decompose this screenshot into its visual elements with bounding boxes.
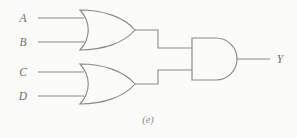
logic-circuit-figure: A B C D Y (e) [0, 0, 297, 138]
wire-or-bottom-to-and [135, 70, 192, 84]
circuit-diagram-svg: A B C D Y (e) [0, 0, 297, 138]
input-label-a: A [18, 12, 27, 24]
or-gate-top-body [80, 10, 135, 50]
input-label-c: C [19, 66, 27, 78]
output-label-y: Y [277, 53, 285, 65]
wire-or-top-to-and [135, 30, 192, 48]
figure-caption: (e) [142, 114, 154, 126]
input-label-d: D [18, 90, 28, 102]
and-gate-body [192, 38, 237, 80]
input-label-b: B [19, 36, 26, 48]
or-gate-bottom-body [80, 64, 135, 104]
